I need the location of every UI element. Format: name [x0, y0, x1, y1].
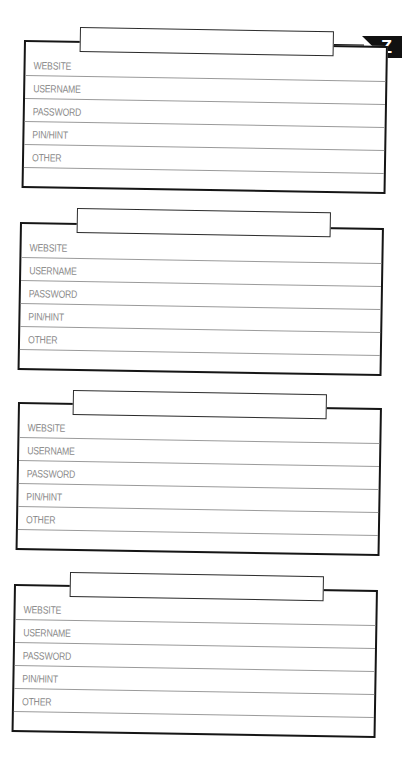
other-field[interactable]	[110, 332, 372, 352]
password-label: PASSWORD	[23, 649, 71, 662]
other-field[interactable]	[104, 694, 366, 714]
username-field[interactable]	[109, 443, 371, 463]
pin-hint-label: PIN/HINT	[26, 490, 62, 503]
card-rows: WEBSITE USERNAME PASSWORD PIN/HINT OTHER	[13, 597, 375, 741]
card-rows: WEBSITE USERNAME PASSWORD PIN/HINT OTHER	[19, 235, 381, 379]
other-field[interactable]	[108, 512, 370, 532]
username-field[interactable]	[111, 263, 373, 283]
username-label: USERNAME	[27, 444, 75, 457]
card-4-title-field[interactable]	[71, 573, 323, 600]
card-3-title-tab	[73, 390, 327, 419]
password-label: PASSWORD	[27, 467, 75, 480]
password-field[interactable]	[111, 286, 373, 306]
password-field[interactable]	[109, 466, 371, 486]
pin-hint-field[interactable]	[114, 127, 376, 147]
card-2-title-tab	[77, 208, 331, 237]
card-2-title-field[interactable]	[78, 209, 330, 236]
pin-hint-label: PIN/HINT	[32, 128, 68, 141]
notes-row	[17, 530, 377, 559]
username-label: USERNAME	[29, 264, 77, 277]
notes-row	[13, 712, 373, 741]
card-3-title-field[interactable]	[74, 391, 326, 418]
password-entry-card-3: WEBSITE USERNAME PASSWORD PIN/HINT OTHER	[16, 402, 382, 556]
website-field[interactable]	[105, 602, 367, 622]
other-field[interactable]	[114, 150, 376, 170]
password-label: PASSWORD	[33, 105, 81, 118]
notes-row	[19, 350, 379, 379]
password-field[interactable]	[115, 104, 377, 124]
notes-field[interactable]	[28, 354, 372, 376]
pin-hint-field[interactable]	[104, 671, 366, 691]
password-entry-card-2: WEBSITE USERNAME PASSWORD PIN/HINT OTHER	[18, 222, 384, 376]
card-4-title-tab	[70, 572, 324, 601]
notes-field[interactable]	[32, 172, 376, 194]
username-field[interactable]	[105, 625, 367, 645]
username-field[interactable]	[115, 81, 377, 101]
notes-field[interactable]	[26, 534, 370, 556]
username-label: USERNAME	[33, 82, 81, 95]
other-label: OTHER	[32, 151, 62, 163]
password-field[interactable]	[105, 648, 367, 668]
notes-field[interactable]	[22, 716, 366, 738]
pin-hint-field[interactable]	[110, 309, 372, 329]
pin-hint-label: PIN/HINT	[22, 672, 58, 685]
other-label: OTHER	[22, 695, 52, 707]
website-field[interactable]	[111, 240, 373, 260]
other-label: OTHER	[28, 333, 58, 345]
website-label: WEBSITE	[27, 421, 65, 434]
notes-row	[23, 168, 383, 197]
website-label: WEBSITE	[23, 603, 61, 616]
other-label: OTHER	[26, 513, 56, 525]
username-label: USERNAME	[23, 626, 71, 639]
website-label: WEBSITE	[29, 241, 67, 254]
card-1-title-field[interactable]	[81, 28, 333, 55]
pin-hint-label: PIN/HINT	[28, 310, 64, 323]
password-label: PASSWORD	[29, 287, 77, 300]
card-rows: WEBSITE USERNAME PASSWORD PIN/HINT OTHER	[23, 53, 385, 197]
website-field[interactable]	[109, 420, 371, 440]
password-entry-card-4: WEBSITE USERNAME PASSWORD PIN/HINT OTHER	[12, 584, 378, 738]
password-entry-card-1: WEBSITE USERNAME PASSWORD PIN/HINT OTHER	[22, 40, 388, 194]
pin-hint-field[interactable]	[108, 489, 370, 509]
card-rows: WEBSITE USERNAME PASSWORD PIN/HINT OTHER	[17, 415, 379, 559]
card-1-title-tab	[80, 27, 334, 56]
website-field[interactable]	[115, 58, 377, 78]
website-label: WEBSITE	[33, 59, 71, 72]
